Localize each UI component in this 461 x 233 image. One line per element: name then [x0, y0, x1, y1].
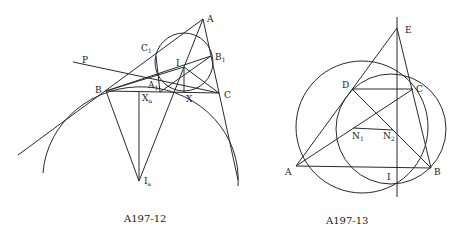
caption-a197-12: A197-12: [123, 213, 166, 224]
label-x: X: [186, 94, 193, 104]
circle-large: [296, 61, 428, 193]
segment-e-b: [397, 28, 431, 168]
segment-a-e: [296, 28, 397, 166]
figure-a197-12: A C1 B1 I P A1 B C Xa X Ia A197-12: [18, 14, 238, 224]
excircle-arc: [43, 87, 238, 186]
segment-a-b: [296, 166, 431, 168]
label-n1: N1: [352, 131, 364, 142]
side-ab-extended: [18, 19, 203, 155]
figure-a197-13: E D C N1 N2 A B I A197-13: [284, 17, 446, 226]
label-i: I: [387, 172, 391, 182]
label-a1: A1: [147, 80, 158, 91]
label-p: P: [82, 55, 88, 65]
label-n2: N2: [383, 131, 395, 142]
side-ac-extended: [203, 19, 238, 180]
label-c: C: [416, 84, 423, 94]
label-a: A: [284, 167, 292, 177]
segment-n1-n2: [353, 128, 393, 130]
segment-b-ia: [106, 91, 139, 181]
label-d: D: [342, 80, 349, 90]
label-a: A: [206, 14, 214, 24]
label-ia: Ia: [144, 176, 152, 187]
label-c: C: [224, 90, 231, 100]
label-c1: C1: [141, 43, 152, 54]
geometry-figures: A C1 B1 I P A1 B C Xa X Ia A197-12 E: [0, 0, 461, 233]
label-i: I: [176, 58, 180, 68]
label-e: E: [405, 25, 412, 35]
label-b1: B1: [215, 52, 225, 63]
label-b: B: [95, 85, 102, 95]
label-xa: Xa: [142, 93, 152, 104]
label-b: B: [434, 167, 441, 177]
side-bc: [106, 91, 219, 93]
segment-a-c: [296, 89, 413, 166]
segment-b-i: [106, 67, 184, 91]
segment-a1-b1: [160, 56, 211, 92]
caption-a197-13: A197-13: [325, 215, 368, 226]
